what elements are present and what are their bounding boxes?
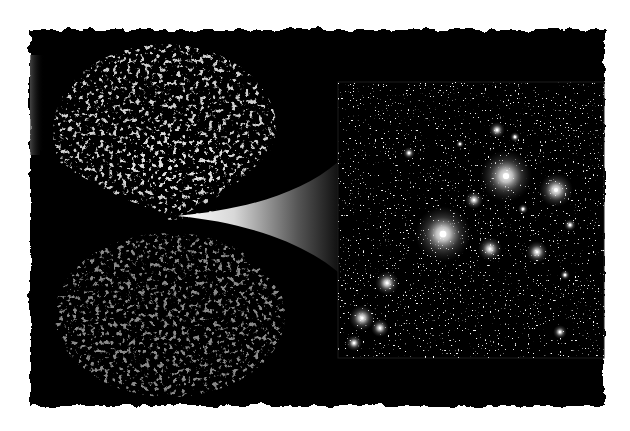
galaxy-core <box>360 316 363 319</box>
galaxy-core <box>489 248 492 251</box>
galaxy-core <box>559 331 561 333</box>
galaxy-core <box>569 224 571 226</box>
galaxy-core <box>536 251 539 254</box>
illustration <box>0 0 630 431</box>
cosmic-web-figure <box>0 0 630 431</box>
cluster-inset <box>338 82 604 358</box>
galaxy-core <box>459 143 461 145</box>
galaxy-core <box>408 152 410 154</box>
galaxy-core <box>379 327 381 329</box>
galaxy-core <box>554 188 558 192</box>
galaxy-core <box>440 231 447 238</box>
galaxy-core <box>386 282 389 285</box>
galaxy-core <box>564 274 566 276</box>
galaxy-core <box>522 208 524 210</box>
galaxy-core <box>503 173 509 179</box>
galaxy-core <box>496 129 498 131</box>
galaxy-core <box>353 342 355 344</box>
galaxy-core <box>514 136 516 138</box>
galaxy-core <box>473 199 475 201</box>
